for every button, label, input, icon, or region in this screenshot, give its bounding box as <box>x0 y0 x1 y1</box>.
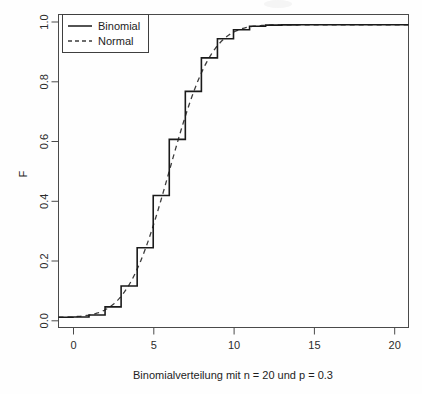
x-tick-label: 0 <box>70 339 76 351</box>
y-tick-label: 0.8 <box>38 74 50 89</box>
y-tick-label: 0.4 <box>38 194 50 209</box>
x-tick-label: 20 <box>389 339 401 351</box>
y-tick-label: 0.0 <box>38 313 50 328</box>
y-axis-title: F <box>17 170 29 177</box>
x-tick-label: 5 <box>151 339 157 351</box>
y-axis-ticks <box>52 22 59 321</box>
plot-frame <box>59 15 409 328</box>
series-binomial-step <box>59 25 409 318</box>
x-tick-label: 10 <box>228 339 240 351</box>
scan-artifact <box>264 0 292 8</box>
y-tick-label: 0.6 <box>38 134 50 149</box>
x-axis-tick-labels: 0 5 10 15 20 <box>70 339 400 351</box>
binomial-cdf-plot: 0 5 10 15 20 0.0 0.2 0.4 0.6 0.8 1.0 F B… <box>0 0 422 394</box>
legend: Binomial Normal <box>63 15 149 53</box>
y-axis-tick-labels: 0.0 0.2 0.4 0.6 0.8 1.0 <box>38 14 50 328</box>
x-tick-label: 15 <box>308 339 320 351</box>
chart-page: 0 5 10 15 20 0.0 0.2 0.4 0.6 0.8 1.0 F B… <box>0 0 422 394</box>
x-axis-title: Binomialverteilung mit n = 20 und p = 0.… <box>133 369 333 381</box>
series-normal-line <box>59 25 409 317</box>
x-axis-ticks <box>74 328 395 335</box>
y-tick-label: 0.2 <box>38 253 50 268</box>
legend-label-normal: Normal <box>98 35 133 47</box>
legend-label-binomial: Binomial <box>98 20 140 32</box>
y-tick-label: 1.0 <box>38 14 50 29</box>
